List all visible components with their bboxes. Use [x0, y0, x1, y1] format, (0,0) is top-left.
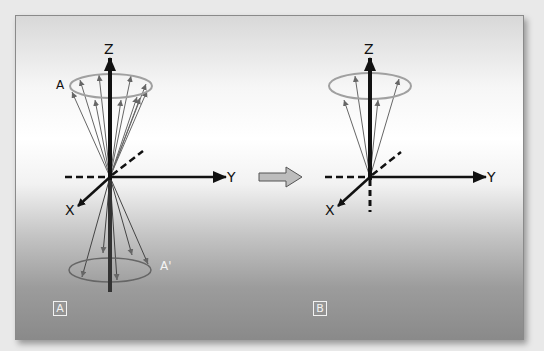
right-arrow-icon: [259, 167, 302, 187]
upper-cone-label: A: [56, 78, 65, 92]
x-label-a: X: [65, 202, 75, 218]
neg-x-axis-a: [112, 151, 143, 175]
panel-a: Z Y X A A': [56, 41, 236, 292]
panel-label-b: B: [313, 301, 327, 316]
spin-precession-diagram: Z Y X A A' Z Y X: [0, 0, 544, 351]
z-label-b: Z: [364, 41, 374, 57]
lower-cone-label: A': [160, 259, 172, 273]
panel-b: Z Y X: [325, 41, 496, 218]
z-label-a: Z: [104, 41, 114, 57]
y-label-b: Y: [486, 169, 496, 185]
x-axis-a: [78, 177, 110, 206]
panel-label-a: A: [53, 301, 67, 316]
y-label-a: Y: [226, 169, 236, 185]
x-axis-b: [338, 177, 370, 206]
x-label-b: X: [325, 202, 335, 218]
